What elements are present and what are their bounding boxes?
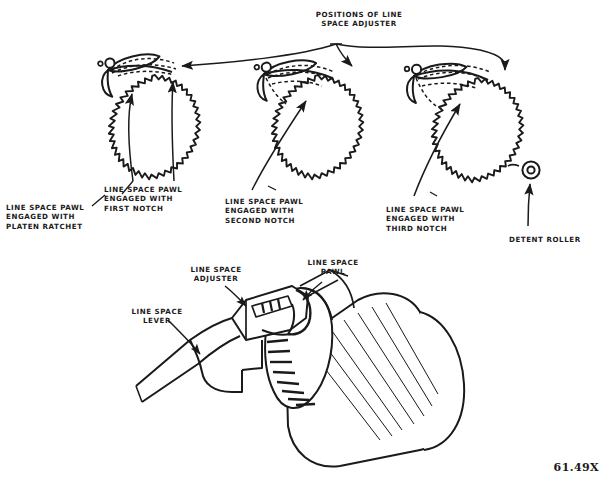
caption-second-notch: LINE SPACE PAWL ENGAGED WITH SECOND NOTC… — [225, 197, 329, 225]
figure-illustration: POSITIONS OF LINE SPACE ADJUSTER LINE SP… — [0, 0, 607, 482]
caption-third-notch: LINE SPACE PAWL ENGAGED WITH THIRD NOTCH — [386, 205, 490, 233]
ratchet-assembly-first — [92, 51, 200, 206]
detent-roller — [508, 161, 540, 178]
ratchet-assembly-second — [252, 57, 363, 190]
caption-first-notch: LINE SPACE PAWL ENGAGED WITH FIRST NOTCH — [104, 185, 208, 213]
caption-detent-roller: DETENT ROLLER — [509, 235, 599, 244]
caption-line-space-pawl: LINE SPACE PAWL — [298, 258, 368, 277]
platen-assembly-perspective — [136, 270, 464, 467]
caption-platen-ratchet: LINE SPACE PAWL ENGAGED WITH PLATEN RATC… — [6, 203, 114, 231]
caption-line-space-lever: LINE SPACE LEVER — [122, 307, 192, 326]
positions-of-line-space-adjuster-label: POSITIONS OF LINE SPACE ADJUSTER — [300, 10, 418, 29]
caption-line-space-adjuster: LINE SPACE ADJUSTER — [178, 265, 254, 284]
ratchet-assembly-third — [404, 61, 539, 226]
figure-number: 61.49X — [554, 461, 599, 474]
